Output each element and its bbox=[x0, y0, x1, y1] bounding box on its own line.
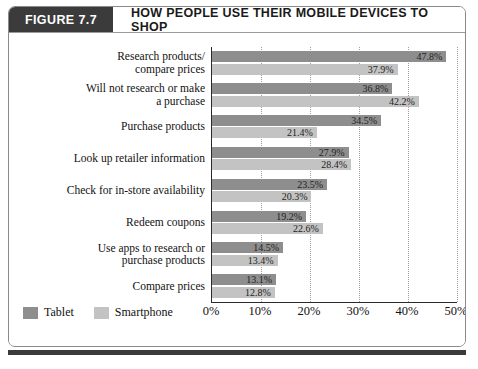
x-tick-label: 10% bbox=[249, 304, 272, 319]
category-label: Research products/compare prices bbox=[15, 50, 211, 75]
bar-value-label: 13.1% bbox=[246, 274, 276, 285]
bar-value-label: 23.5% bbox=[297, 179, 327, 190]
legend-label-tablet: Tablet bbox=[44, 305, 74, 320]
bar-smartphone: 20.3% bbox=[212, 191, 311, 202]
bar-value-label: 14.5% bbox=[253, 242, 283, 253]
category-labels: Research products/compare pricesWill not… bbox=[9, 47, 211, 302]
bar-tablet: 27.9% bbox=[212, 147, 349, 158]
x-tick-label: 0% bbox=[203, 304, 220, 319]
bar-value-label: 12.8% bbox=[245, 287, 275, 298]
bar-smartphone: 37.9% bbox=[212, 64, 398, 75]
legend-entry-tablet: Tablet bbox=[23, 305, 74, 320]
x-tick-label: 40% bbox=[396, 304, 419, 319]
category-label: Purchase products bbox=[15, 120, 211, 133]
category-label: Compare prices bbox=[15, 280, 211, 293]
footer-divider bbox=[8, 350, 466, 355]
bar-value-label: 20.3% bbox=[282, 191, 312, 202]
category-label: Use apps to research orpurchase products bbox=[15, 242, 211, 267]
bar-value-label: 47.8% bbox=[416, 51, 446, 62]
gridline bbox=[457, 47, 458, 302]
bar-tablet: 34.5% bbox=[212, 115, 381, 126]
gridline bbox=[408, 47, 409, 302]
bar-tablet: 14.5% bbox=[212, 242, 283, 253]
bar-smartphone: 21.4% bbox=[212, 127, 317, 138]
figure-card: FIGURE 7.7 HOW PEOPLE USE THEIR MOBILE D… bbox=[8, 6, 466, 347]
bar-smartphone: 42.2% bbox=[212, 96, 419, 107]
legend-entry-smartphone: Smartphone bbox=[94, 305, 173, 320]
category-label: Check for in-store availability bbox=[15, 184, 211, 197]
bar-value-label: 21.4% bbox=[287, 127, 317, 138]
bar-tablet: 36.8% bbox=[212, 83, 392, 94]
x-tick-label: 20% bbox=[298, 304, 321, 319]
bar-smartphone: 12.8% bbox=[212, 287, 275, 298]
figure-title: HOW PEOPLE USE THEIR MOBILE DEVICES TO S… bbox=[113, 7, 465, 32]
legend-swatch-tablet bbox=[23, 307, 38, 319]
figure-header: FIGURE 7.7 HOW PEOPLE USE THEIR MOBILE D… bbox=[9, 7, 465, 33]
bar-value-label: 36.8% bbox=[362, 83, 392, 94]
bar-value-label: 22.6% bbox=[293, 223, 323, 234]
category-label: Look up retailer information bbox=[15, 152, 211, 165]
bar-value-label: 13.4% bbox=[248, 255, 278, 266]
bar-value-label: 27.9% bbox=[319, 147, 349, 158]
bar-tablet: 23.5% bbox=[212, 179, 327, 190]
legend-swatch-smartphone bbox=[94, 307, 109, 319]
bar-value-label: 37.9% bbox=[368, 64, 398, 75]
bar-tablet: 13.1% bbox=[212, 274, 276, 285]
category-label: Will not research or makea purchase bbox=[15, 82, 211, 107]
bar-smartphone: 13.4% bbox=[212, 255, 278, 266]
bar-tablet: 47.8% bbox=[212, 51, 446, 62]
figure-number-tag: FIGURE 7.7 bbox=[9, 7, 113, 32]
bar-tablet: 19.2% bbox=[212, 211, 306, 222]
x-tick-label: 50% bbox=[445, 304, 466, 319]
bar-value-label: 42.2% bbox=[389, 96, 419, 107]
bar-smartphone: 28.4% bbox=[212, 159, 351, 170]
plot-region: 47.8%37.9%36.8%42.2%34.5%21.4%27.9%28.4%… bbox=[211, 47, 457, 303]
legend-label-smartphone: Smartphone bbox=[115, 305, 173, 320]
x-axis-tick-labels: 0%10%20%30%40%50% bbox=[211, 304, 456, 322]
chart-legend: Tablet Smartphone bbox=[23, 305, 185, 320]
bar-smartphone: 22.6% bbox=[212, 223, 323, 234]
category-label: Redeem coupons bbox=[15, 216, 211, 229]
bar-value-label: 28.4% bbox=[321, 159, 351, 170]
bar-value-label: 19.2% bbox=[276, 211, 306, 222]
bar-value-label: 34.5% bbox=[351, 115, 381, 126]
x-tick-label: 30% bbox=[347, 304, 370, 319]
chart-area: Research products/compare pricesWill not… bbox=[9, 33, 465, 346]
